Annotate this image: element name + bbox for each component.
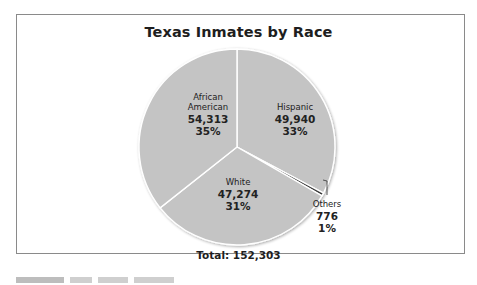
label-others: Others 776 1%: [304, 200, 350, 234]
label-hispanic: Hispanic 49,940 33%: [257, 103, 333, 137]
pie-chart: [0, 0, 477, 285]
label-white: White 47,274 31%: [200, 178, 276, 212]
total-label: Total: 152,303: [0, 249, 477, 261]
figure-caption-cropped: [16, 277, 186, 283]
label-african-american: African American 54,313 35%: [168, 93, 248, 137]
